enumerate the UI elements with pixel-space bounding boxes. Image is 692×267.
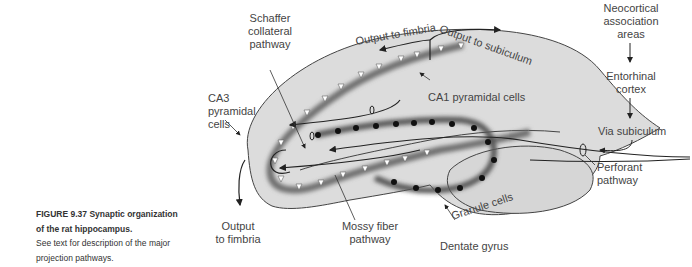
caption-body-1: See text for description of the major <box>36 236 196 251</box>
label-schaffer: Schaffer collateral pathway <box>240 12 300 51</box>
label-ca3: CA3 pyramidal cells <box>208 92 256 131</box>
label-entorhinal: Entorhinal cortex <box>600 70 662 96</box>
label-ca1: CA1 pyramidal cells <box>428 91 525 104</box>
figure-caption: FIGURE 9.37 Synaptic organization of the… <box>36 207 196 265</box>
label-via-subiculum: Via subiculum <box>598 125 666 138</box>
label-mossy: Mossy fiber pathway <box>335 220 405 246</box>
caption-title-2: of the rat hippocampus. <box>36 222 196 237</box>
label-dentate: Dentate gyrus <box>440 240 508 253</box>
label-perforant: Perforant pathway <box>597 161 642 187</box>
label-neocortical: Neocortical association areas <box>595 2 667 41</box>
label-output-fimbria-bottom: Output to fimbria <box>210 220 266 246</box>
caption-body-2: projection pathways. <box>36 251 196 266</box>
caption-title-1: FIGURE 9.37 Synaptic organization <box>36 207 196 222</box>
